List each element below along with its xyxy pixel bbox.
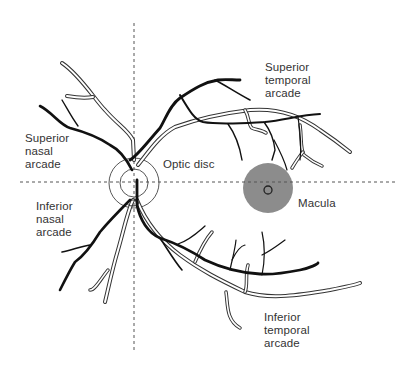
macula [243,163,293,213]
label-optic-disc: Optic disc [163,158,215,171]
macula-disc [243,163,293,213]
label-superior-nasal-arcade: Superior nasal arcade [25,132,69,171]
fundus-diagram: Superior temporal arcade Superior nasal … [0,0,409,370]
veins [62,63,360,328]
label-inferior-temporal-arcade: Inferior temporal arcade [264,311,310,350]
fundus-drawing [0,0,409,370]
label-macula: Macula [298,197,336,210]
label-superior-temporal-arcade: Superior temporal arcade [265,61,311,100]
label-inferior-nasal-arcade: Inferior nasal arcade [36,200,73,239]
